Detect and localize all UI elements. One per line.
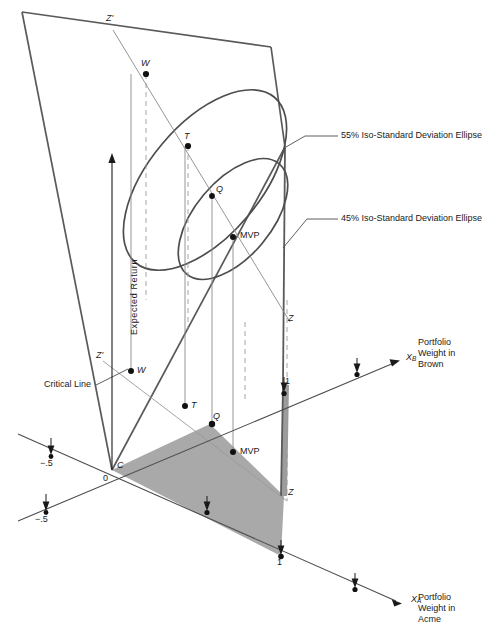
callout-critical-line: Critical Line	[44, 379, 91, 390]
label-point-t-lower: T	[191, 400, 197, 411]
axis-title-brown: Portfolio Weight in Brown	[418, 337, 455, 370]
dot-W-lower	[128, 368, 134, 374]
axis-symbol-xb-subscript: B	[412, 355, 416, 362]
plane-top-edge	[22, 12, 271, 47]
expected-return-arrow-head	[108, 153, 115, 163]
label-point-mvp-upper: MVP	[240, 230, 260, 241]
dot-W-upper	[143, 71, 149, 77]
tick-xa-neg-half	[43, 494, 50, 515]
label-z-prime-top: Z'	[106, 13, 113, 24]
axis-title-acme-line1: Portfolio	[418, 592, 455, 603]
label-point-q-lower: Q	[213, 411, 220, 422]
expected-return-plane	[22, 12, 285, 470]
dot-Q-upper	[209, 193, 215, 199]
label-z-plane: Z	[288, 313, 294, 324]
data-point-dots	[128, 71, 236, 455]
label-z-lower: Z	[288, 487, 294, 498]
callout-leaders	[283, 136, 338, 248]
label-point-w-lower: W	[137, 365, 146, 376]
dot-T-upper	[185, 143, 191, 149]
axis-title-acme-line3: Acme	[418, 614, 455, 625]
label-point-c: C	[117, 460, 124, 471]
dot-T-lower	[182, 403, 188, 409]
leader-ellipse-55	[286, 136, 338, 147]
tick-label-xa-one: 1	[277, 557, 282, 568]
label-point-w-upper: W	[141, 58, 150, 69]
tick-label-xa-neg-half: −.5	[35, 514, 48, 525]
axis-label-expected-return: Expected Return	[129, 259, 139, 335]
axis-title-acme-line2: Weight in	[418, 603, 455, 614]
tick-xa-outer	[352, 573, 359, 592]
label-point-t-upper: T	[184, 131, 190, 142]
callout-ellipse-45: 45% Iso-Standard Deviation Ellipse	[341, 213, 482, 224]
tick-xb-outer	[354, 358, 361, 377]
dot-MVP-lower	[230, 449, 236, 455]
tick-xb-neg-half	[48, 438, 55, 459]
axis-title-acme: Portfolio Weight in Acme	[418, 592, 455, 625]
axis-symbol-xb: XB	[406, 352, 416, 364]
feasible-region-shade	[112, 424, 284, 556]
label-origin: 0	[103, 473, 108, 484]
axis-title-brown-line1: Portfolio	[418, 337, 455, 348]
dot-MVP-upper	[230, 234, 236, 240]
wall-right-edge	[283, 147, 285, 385]
tick-label-xb-one: 1	[285, 376, 290, 387]
label-point-q-upper: Q	[216, 184, 223, 195]
label-point-mvp-lower: MVP	[240, 446, 260, 457]
axis-xb-arrow	[390, 359, 401, 366]
axis-title-brown-line3: Brown	[418, 359, 455, 370]
plane-left-edge	[22, 12, 112, 470]
axis-title-brown-line2: Weight in	[418, 348, 455, 359]
callout-ellipse-55: 55% Iso-Standard Deviation Ellipse	[341, 130, 482, 141]
expected-return-axis	[108, 153, 115, 470]
leader-ellipse-45	[283, 219, 338, 248]
label-z-prime-lower: Z'	[96, 350, 103, 361]
tick-label-xb-neg-half: −.5	[40, 458, 53, 469]
axis-xa-arrow	[392, 600, 402, 607]
